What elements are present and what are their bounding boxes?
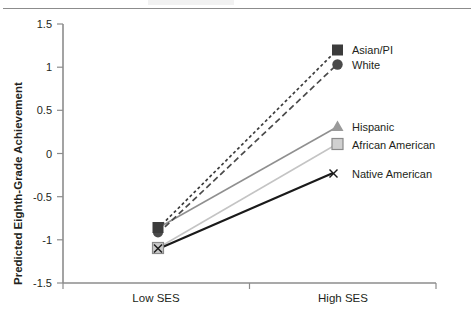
series-line-hispanic [158,127,337,228]
marker-white-high [332,59,342,69]
x-tick-label-high-ses: High SES [318,292,368,304]
legend-label-asian-pi: Asian/PI [352,44,393,56]
line-chart: Predicted Eighth-Grade Achievement 1.5 1… [0,0,474,319]
marker-african-american-high [332,139,343,150]
legend-label-hispanic: Hispanic [352,121,395,133]
legend-label-white: White [352,59,380,71]
y-tick-label-1: 1 [46,61,52,73]
marker-asian-pi-low [153,222,164,233]
y-tick-label-1_5: 1.5 [37,18,52,30]
series-line-native-american [158,173,333,249]
legend-label-native-american: Native American [352,168,432,180]
series-line-asian-pi [158,50,337,229]
marker-hispanic-high [332,121,344,132]
y-tick-label-neg0_5: -0.5 [33,191,52,203]
marker-asian-pi-high [332,45,343,56]
y-tick-label-0_5: 0.5 [37,104,52,116]
y-axis-title: Predicted Eighth-Grade Achievement [12,82,24,285]
y-tick-label-0: 0 [46,148,52,160]
y-tick-label-neg1_5: -1.5 [33,277,52,289]
figure-container: Predicted Eighth-Grade Achievement 1.5 1… [0,0,474,319]
series-line-white [158,65,337,234]
legend-label-african-american: African American [352,139,435,151]
x-tick-label-low-ses: Low SES [132,292,180,304]
x-axis-ticks [63,283,436,289]
y-tick-label-neg1: -1 [42,234,52,246]
series-line-african-american [158,144,337,248]
y-axis-ticks [57,24,63,283]
